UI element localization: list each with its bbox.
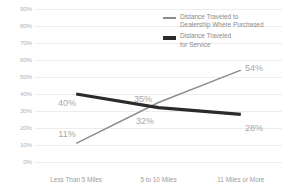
x-axis-tick-label: Less Than 5 Miles — [50, 177, 102, 183]
legend-label-purchased: Distance Traveled to Dealership Where Pu… — [180, 13, 263, 29]
data-point-label: 35% — [134, 95, 152, 104]
data-point-label: 40% — [58, 99, 76, 108]
data-point-label: 11% — [58, 130, 75, 139]
x-axis-tick-label: 5 to 10 Miles — [140, 177, 176, 183]
data-point-label: 54% — [245, 64, 263, 73]
series-line-distance-for-service — [76, 94, 241, 114]
chart-legend: Distance Traveled to Dealership Where Pu… — [163, 13, 281, 52]
legend-line-icon-service — [163, 32, 176, 42]
legend-item-distance-to-dealership[interactable]: Distance Traveled to Dealership Where Pu… — [163, 13, 281, 29]
legend-label-service: Distance Traveled for Service — [180, 32, 231, 48]
x-axis-tick-label: 11 Miles or More — [217, 177, 264, 183]
data-point-label: 28% — [245, 124, 263, 133]
line-chart: 90%80%70%60%50%40%30%20%10%0% 40%11%35%3… — [0, 0, 284, 185]
legend-line-icon-purchased — [163, 13, 176, 23]
data-point-label: 32% — [136, 117, 154, 126]
legend-item-distance-for-service[interactable]: Distance Traveled for Service — [163, 32, 281, 48]
